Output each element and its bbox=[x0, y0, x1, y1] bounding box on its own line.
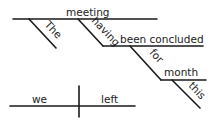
word-meeting: meeting bbox=[66, 6, 110, 18]
word-left: left bbox=[101, 93, 118, 105]
word-month: month bbox=[164, 66, 198, 78]
word-been-concluded: been concluded bbox=[120, 33, 204, 45]
word-for: for bbox=[148, 46, 167, 65]
word-we: we bbox=[32, 93, 47, 105]
sentence-diagram: meeting The having been concluded for mo… bbox=[0, 0, 217, 122]
